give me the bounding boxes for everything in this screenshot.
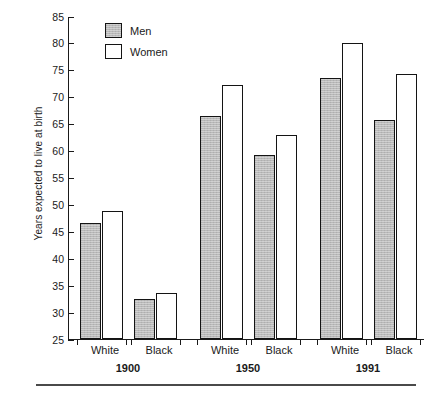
bar-1900-White-men <box>80 223 101 339</box>
bar-1900-Black-women <box>156 293 177 339</box>
bar-1991-White-women <box>342 43 363 339</box>
y-tick <box>68 232 74 233</box>
y-tick-label: 60 <box>34 146 64 157</box>
y-tick-label: 80 <box>34 38 64 49</box>
category-label: Black <box>129 344 189 356</box>
y-tick-label: 50 <box>34 200 64 211</box>
plot-area <box>68 17 424 340</box>
y-tick-label: 70 <box>34 92 64 103</box>
bar-1950-Black-men <box>254 155 275 339</box>
category-label: White <box>75 344 135 356</box>
y-tick <box>68 97 74 98</box>
y-tick <box>68 17 74 18</box>
legend-item-men: Men <box>105 20 168 41</box>
y-tick-label: 55 <box>34 173 64 184</box>
y-tick-label: 85 <box>34 12 64 23</box>
legend-item-women: Women <box>105 41 168 62</box>
bar-1950-White-men <box>200 116 221 339</box>
y-tick <box>68 205 74 206</box>
bar-1991-Black-men <box>374 120 395 339</box>
category-label: White <box>315 344 375 356</box>
chart-legend: Men Women <box>105 20 168 62</box>
y-tick <box>68 178 74 179</box>
y-tick-label: 45 <box>34 227 64 238</box>
y-tick-label: 40 <box>34 254 64 265</box>
y-tick-label: 75 <box>34 65 64 76</box>
category-label: Black <box>249 344 309 356</box>
footer-divider <box>36 384 416 386</box>
legend-swatch-men-icon <box>105 23 122 38</box>
bar-1900-White-women <box>102 211 123 339</box>
y-tick <box>68 151 74 152</box>
y-tick-label: 65 <box>34 119 64 130</box>
life-expectancy-bar-chart: Years expected to live at birth 85807570… <box>0 0 438 403</box>
group-label-1900: 1900 <box>68 362 188 374</box>
legend-label-men: Men <box>130 25 151 37</box>
y-tick <box>68 124 74 125</box>
group-label-1991: 1991 <box>308 362 428 374</box>
y-tick <box>68 259 74 260</box>
bar-1991-Black-women <box>396 74 417 339</box>
group-label-1950: 1950 <box>188 362 308 374</box>
category-label: White <box>195 344 255 356</box>
y-tick-label: 30 <box>34 308 64 319</box>
y-tick <box>68 43 74 44</box>
legend-label-women: Women <box>130 46 168 58</box>
bar-1950-Black-women <box>276 135 297 339</box>
y-tick <box>68 340 74 341</box>
bar-1950-White-women <box>222 85 243 339</box>
bar-1991-White-men <box>320 78 341 339</box>
y-tick <box>68 313 74 314</box>
y-tick-label: 25 <box>34 335 64 346</box>
bar-1900-Black-men <box>134 299 155 339</box>
y-tick-label: 35 <box>34 281 64 292</box>
legend-swatch-women-icon <box>105 44 122 59</box>
category-label: Black <box>369 344 429 356</box>
y-tick <box>68 286 74 287</box>
y-tick <box>68 70 74 71</box>
